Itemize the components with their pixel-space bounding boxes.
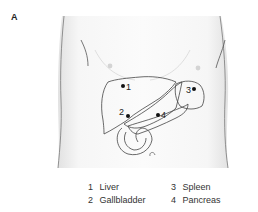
svg-text:3: 3 <box>186 85 191 95</box>
legend-number: 2 <box>88 194 97 207</box>
torso-outline <box>58 16 228 168</box>
legend-number: 3 <box>171 181 180 194</box>
right-nipple <box>196 66 201 71</box>
legend-number: 4 <box>171 194 180 207</box>
svg-text:2: 2 <box>119 107 124 117</box>
legend-item-spleen: 3 Spleen <box>171 181 211 194</box>
legend-number: 1 <box>88 181 97 194</box>
legend-item-liver: 1 Liver <box>88 181 119 194</box>
torso-diagram: 1 2 3 4 <box>0 0 258 212</box>
left-nipple <box>108 64 113 69</box>
svg-text:1: 1 <box>126 82 131 92</box>
legend-item-gallbladder: 2 Gallbladder <box>88 194 146 207</box>
legend-label: Liver <box>100 182 120 192</box>
svg-text:4: 4 <box>161 110 166 120</box>
legend-label: Pancreas <box>183 195 221 205</box>
legend-label: Spleen <box>183 182 211 192</box>
legend-item-pancreas: 4 Pancreas <box>171 194 221 207</box>
legend-label: Gallbladder <box>100 195 146 205</box>
